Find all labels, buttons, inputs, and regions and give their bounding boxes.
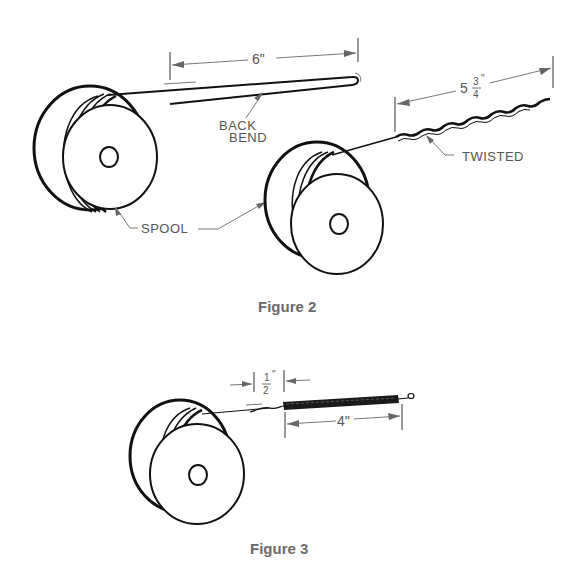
dimension-6in: 6" [170, 38, 358, 80]
dimension-inch-mark: " [481, 73, 485, 84]
half-denominator: 2 [263, 385, 269, 396]
figure-3-caption: Figure 3 [250, 540, 308, 557]
spool-right [265, 142, 383, 274]
dimension-4in: 4" [285, 404, 402, 438]
wire-back-bend [108, 73, 361, 104]
half-inch-mark: " [272, 369, 276, 380]
spool-left [34, 86, 157, 212]
twisted-label: TWISTED [462, 149, 524, 164]
dimension-4in-label: 4" [337, 413, 350, 429]
label-twisted: TWISTED [426, 135, 524, 164]
dimension-6in-label: 6" [252, 51, 265, 67]
dimension-numerator: 3 [473, 76, 479, 87]
wire-coil [202, 394, 414, 415]
bend-label: BEND [229, 130, 267, 145]
dimension-half-in: 1 2 " [230, 369, 310, 396]
spool-figure3 [130, 400, 244, 524]
dimension-5-3-4in: 5 3 4 " [395, 56, 553, 132]
label-spool: SPOOL [115, 202, 266, 236]
dimension-whole: 5 [460, 80, 468, 96]
figure-2-caption: Figure 2 [258, 298, 316, 315]
spool-label: SPOOL [141, 221, 188, 236]
coil-body [283, 395, 399, 410]
label-back-bend: BACK BEND [219, 92, 267, 145]
half-numerator: 1 [264, 372, 270, 383]
dimension-denominator: 4 [473, 89, 479, 100]
diagram-canvas: 6" BACK BEND SPOOL 5 3 [0, 0, 588, 579]
wire-twisted [332, 99, 550, 155]
